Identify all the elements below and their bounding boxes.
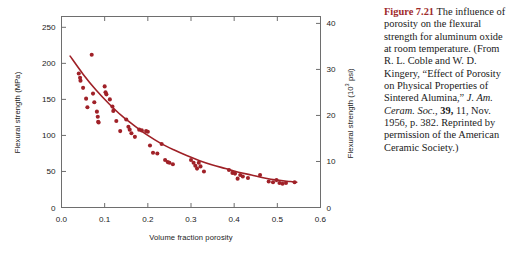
y-tick-label-secondary: 0 <box>327 204 332 213</box>
data-point <box>140 128 144 132</box>
data-point <box>258 173 262 177</box>
data-point <box>77 71 81 75</box>
data-point <box>92 100 96 104</box>
data-point <box>78 79 82 83</box>
data-point <box>171 162 175 166</box>
data-point <box>197 161 201 165</box>
y-tick-label: 150 <box>42 95 56 104</box>
data-point <box>128 128 132 132</box>
axes-frame <box>62 17 321 208</box>
data-point <box>114 119 118 123</box>
data-point <box>293 180 297 184</box>
data-point <box>271 180 275 184</box>
figure-container: 0.00.10.20.30.40.50.60501001502002500102… <box>0 0 512 257</box>
data-point <box>85 105 89 109</box>
data-point <box>151 151 155 155</box>
data-point <box>202 169 206 173</box>
x-tick-label: 0.4 <box>229 215 241 224</box>
y-tick-label-secondary: 30 <box>327 65 337 74</box>
data-point <box>198 164 202 168</box>
data-point <box>155 151 159 155</box>
caption-text: The influence of porosity on the flexura… <box>384 6 505 103</box>
y-tick-label-secondary: 10 <box>327 157 337 166</box>
caption-volume-number: 39, <box>440 105 453 116</box>
data-point <box>90 53 94 57</box>
data-point <box>227 168 231 172</box>
data-point <box>148 143 152 147</box>
data-point <box>160 142 164 146</box>
data-point <box>108 97 112 101</box>
data-point <box>95 110 99 114</box>
x-tick-label: 0.2 <box>142 215 154 224</box>
data-point <box>236 177 240 181</box>
data-points <box>77 53 297 186</box>
y-tick-label: 0 <box>51 204 56 213</box>
data-point <box>241 174 245 178</box>
y-tick-label: 50 <box>46 167 56 176</box>
data-point <box>267 180 271 184</box>
data-point <box>111 109 115 113</box>
data-point <box>133 135 137 139</box>
data-point <box>280 182 284 186</box>
y-tick-label-secondary: 40 <box>327 19 337 28</box>
data-point <box>146 130 150 134</box>
data-point <box>97 120 101 124</box>
x-tick-label: 0.5 <box>272 215 284 224</box>
data-point <box>103 84 107 88</box>
figure-caption: Figure 7.21 The influence of porosity on… <box>384 6 510 154</box>
data-point <box>96 115 100 119</box>
data-point <box>81 86 85 90</box>
axis-tick-labels: 0.00.10.20.30.40.50.60501001502002500102… <box>42 19 336 223</box>
data-point <box>233 172 237 176</box>
data-point <box>195 167 199 171</box>
data-point <box>118 129 122 133</box>
y-tick-label: 250 <box>42 23 56 32</box>
y-tick-label: 100 <box>42 131 56 140</box>
y-axis-title-right: Flexural strength (103 psi) <box>344 58 355 168</box>
y-tick-label-secondary: 20 <box>327 111 337 120</box>
x-tick-label: 0.6 <box>315 215 327 224</box>
data-point <box>84 97 88 101</box>
scatter-plot-svg: 0.00.10.20.30.40.50.60501001502002500102… <box>0 0 372 257</box>
data-point <box>284 181 288 185</box>
chart-panel: 0.00.10.20.30.40.50.60501001502002500102… <box>0 0 372 257</box>
data-point <box>91 92 95 96</box>
data-point <box>246 176 250 180</box>
data-point <box>124 118 128 122</box>
x-tick-label: 0.3 <box>185 215 197 224</box>
y-tick-label: 200 <box>42 59 56 68</box>
data-point <box>104 92 108 96</box>
x-tick-label: 0.0 <box>56 215 68 224</box>
y-axis-title-left: Flexural strength (MPa) <box>13 58 22 168</box>
x-axis-title: Volume fraction porosity <box>62 233 320 242</box>
data-point <box>274 178 278 182</box>
data-point <box>129 131 133 135</box>
data-point <box>110 105 114 109</box>
x-tick-label: 0.1 <box>99 215 111 224</box>
trend-curve <box>70 56 297 182</box>
caption-figure-number: Figure 7.21 <box>384 6 434 17</box>
